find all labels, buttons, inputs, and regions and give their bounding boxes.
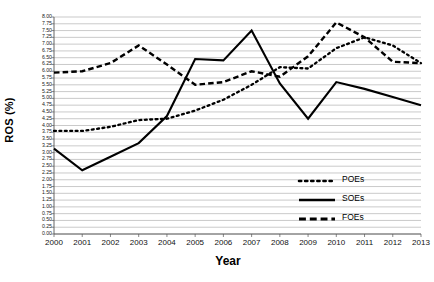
series-line-foes xyxy=(54,22,421,84)
x-tick-label: 2001 xyxy=(73,238,91,247)
x-tick-label: 2005 xyxy=(186,238,204,247)
x-axis-title-text: Year xyxy=(215,254,240,268)
legend-swatch-solid xyxy=(297,192,337,204)
legend-label: SOEs xyxy=(342,193,364,203)
legend-item-poes: POEs xyxy=(297,171,405,187)
x-tick-label: 2000 xyxy=(45,238,63,247)
series-line-soes xyxy=(54,31,421,171)
x-tick-label: 2013 xyxy=(412,238,430,247)
data-series-group xyxy=(54,22,421,170)
x-tick-label: 2011 xyxy=(356,238,373,247)
x-tick-label: 2010 xyxy=(327,238,345,247)
x-tick-label: 2009 xyxy=(299,238,317,247)
x-tick-label: 2012 xyxy=(384,238,402,247)
x-tick-label: 2006 xyxy=(214,238,232,247)
series-line-poes xyxy=(54,37,421,131)
legend-swatch-dashed xyxy=(297,211,337,223)
x-axis-title: Year xyxy=(0,254,434,268)
legend-swatch-dotted xyxy=(297,173,337,185)
x-tick-label: 2007 xyxy=(243,238,261,247)
legend-label: POEs xyxy=(342,174,364,184)
x-tick-label: 2002 xyxy=(102,238,120,247)
x-tick-label: 2008 xyxy=(271,238,289,247)
legend-item-foes: FOEs xyxy=(297,209,405,225)
legend-label: FOEs xyxy=(342,212,364,222)
x-axis-tick-labels: 2000200120022003200420052006200720082009… xyxy=(0,236,434,252)
x-tick-label: 2004 xyxy=(158,238,176,247)
legend-item-soes: SOEs xyxy=(297,190,405,206)
x-tick-label: 2003 xyxy=(130,238,148,247)
chart-legend: POEsSOEsFOEs xyxy=(297,171,405,227)
ros-line-chart: ROS (%) 0.000.250.500.751.001.251.501.75… xyxy=(0,0,434,282)
